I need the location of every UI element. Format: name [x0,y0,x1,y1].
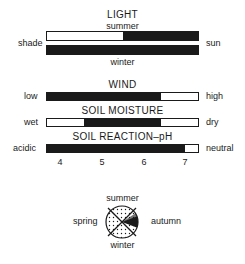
soil-moisture-bar [46,118,199,127]
light-summer-label: summer [0,21,245,31]
light-summer-dark-segment [123,32,198,40]
light-shade-label: shade [18,38,43,48]
ph-tick-7: 7 [180,157,190,167]
light-sun-label: sun [206,38,221,48]
soil-moisture-dark-segment [84,119,160,126]
season-wheel-icon [104,204,140,240]
soil-reaction-dark-segment [47,145,185,152]
soil-reaction-neutral-label: neutral [206,143,234,153]
soil-moisture-wet-label: wet [24,117,38,127]
season-spring-label: spring [73,216,98,226]
ph-tick-6: 6 [139,157,149,167]
light-winter-label: winter [0,57,245,67]
season-summer-label: summer [0,193,245,203]
light-title: LIGHT [0,9,245,20]
soil-moisture-dry-label: dry [206,117,219,127]
wind-high-label: high [206,91,223,101]
soil-moisture-title: SOIL MOISTURE [0,105,245,116]
ph-tick-4: 4 [55,157,65,167]
ph-tick-5: 5 [97,157,107,167]
wind-low-label: low [24,91,38,101]
wind-bar [46,92,199,101]
soil-reaction-acidic-label: acidic [13,143,36,153]
soil-reaction-bar [46,144,199,153]
wind-dark-segment [47,93,161,100]
wind-title: WIND [0,79,245,90]
season-winter-label: winter [0,240,245,250]
soil-reaction-title: SOIL REACTION–pH [0,131,245,142]
light-winter-bar [46,45,199,55]
season-autumn-label: autumn [151,216,181,226]
light-summer-bar [46,31,199,41]
